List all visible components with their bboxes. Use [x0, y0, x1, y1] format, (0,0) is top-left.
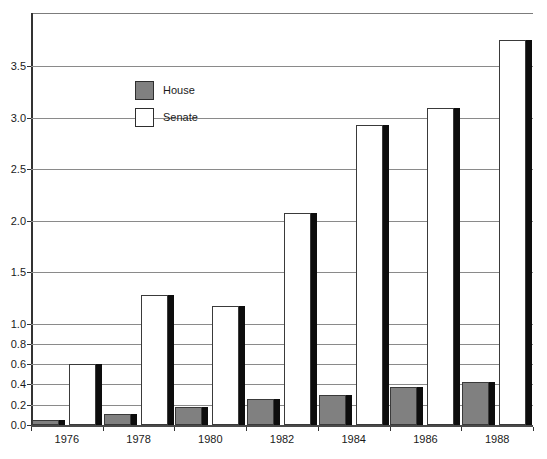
bar-front-face — [69, 364, 96, 425]
bar-top-bevel — [58, 420, 65, 424]
bar-front-face — [390, 387, 417, 425]
y-tick-label: 3.0 — [11, 112, 26, 123]
bar-side-face — [202, 411, 208, 425]
legend-label-house: House — [163, 85, 195, 96]
bar-side-face — [311, 217, 317, 425]
x-tick-label-1978: 1978 — [126, 434, 150, 445]
bar-front-face — [356, 125, 383, 425]
y-tick-mark — [27, 169, 31, 170]
bar-side-face — [96, 368, 102, 425]
bar-group-1980 — [175, 13, 245, 425]
bar-top-bevel — [273, 399, 280, 403]
legend-swatch-house-icon — [135, 81, 154, 100]
bar-group-1976 — [32, 13, 102, 425]
bar-top-bevel — [238, 306, 245, 310]
bar-top-bevel — [382, 125, 389, 129]
x-tick-label-1980: 1980 — [198, 434, 222, 445]
bar-front-face — [499, 40, 526, 425]
y-tick-label: 0.6 — [11, 359, 26, 370]
bar-side-face — [383, 129, 389, 425]
bar-group-1982 — [247, 13, 317, 425]
bar-side-face — [489, 386, 495, 425]
bar-top-bevel — [525, 40, 532, 44]
bar-front-face — [462, 382, 489, 425]
y-tick-label: 3.5 — [11, 61, 26, 72]
bar-house-1988 — [462, 382, 495, 425]
legend-item-house: House — [135, 79, 198, 101]
bar-side-face — [346, 399, 352, 425]
y-tick-mark — [27, 344, 31, 345]
bar-chart: 0.00.20.40.60.81.01.52.02.53.03.5 197619… — [0, 0, 547, 459]
bar-side-face — [274, 403, 280, 425]
bar-top-bevel — [488, 382, 495, 386]
x-tick-mark — [318, 427, 319, 431]
y-tick-mark — [27, 221, 31, 222]
y-tick-label: 0.8 — [11, 338, 26, 349]
bar-front-face — [175, 407, 202, 425]
bar-front-face — [284, 213, 311, 425]
bar-house-1980 — [175, 407, 208, 425]
bar-senate-1988 — [499, 40, 532, 425]
bar-side-face — [131, 418, 137, 425]
bar-side-face — [454, 112, 460, 425]
bar-group-1978 — [104, 13, 174, 425]
legend-label-senate: Senate — [163, 112, 198, 123]
bar-house-1986 — [390, 387, 423, 425]
bar-top-bevel — [201, 407, 208, 411]
chart-legend: House Senate — [135, 79, 198, 133]
bar-front-face — [32, 420, 59, 425]
bar-top-bevel — [95, 364, 102, 368]
bar-front-face — [247, 399, 274, 425]
bar-senate-1978 — [141, 295, 174, 425]
x-tick-mark — [533, 427, 534, 431]
bar-side-face — [417, 391, 423, 425]
x-tick-mark — [31, 427, 32, 431]
legend-item-senate: Senate — [135, 106, 198, 128]
x-tick-label-1976: 1976 — [55, 434, 79, 445]
bar-top-bevel — [345, 395, 352, 399]
bar-senate-1976 — [69, 364, 102, 425]
bar-top-bevel — [310, 213, 317, 217]
x-tick-mark — [103, 427, 104, 431]
bar-side-face — [168, 299, 174, 425]
y-tick-label: 0.4 — [11, 379, 26, 390]
x-tick-mark — [174, 427, 175, 431]
bar-house-1978 — [104, 414, 137, 425]
y-tick-label: 0.2 — [11, 399, 26, 410]
y-tick-mark — [27, 384, 31, 385]
x-tick-label-1982: 1982 — [270, 434, 294, 445]
bar-group-1988 — [462, 13, 532, 425]
y-tick-mark — [27, 425, 31, 426]
bar-side-face — [59, 424, 65, 425]
x-tick-label-1988: 1988 — [485, 434, 509, 445]
bar-group-1984 — [319, 13, 389, 425]
bar-top-bevel — [453, 108, 460, 112]
bar-side-face — [239, 310, 245, 425]
y-tick-mark — [27, 405, 31, 406]
x-tick-mark — [246, 427, 247, 431]
y-tick-label: 0.0 — [11, 420, 26, 431]
bar-house-1976 — [32, 420, 65, 425]
y-tick-mark — [27, 118, 31, 119]
bar-front-face — [427, 108, 454, 425]
y-tick-label: 1.5 — [11, 267, 26, 278]
bar-senate-1986 — [427, 108, 460, 425]
y-tick-label: 1.0 — [11, 318, 26, 329]
x-tick-label-1986: 1986 — [413, 434, 437, 445]
bar-front-face — [141, 295, 168, 425]
y-tick-label: 2.0 — [11, 215, 26, 226]
bar-side-face — [526, 44, 532, 425]
bar-front-face — [212, 306, 239, 425]
bar-senate-1980 — [212, 306, 245, 425]
x-tick-label-1984: 1984 — [341, 434, 365, 445]
y-tick-mark — [27, 364, 31, 365]
y-tick-label: 2.5 — [11, 164, 26, 175]
x-tick-mark — [461, 427, 462, 431]
bar-top-bevel — [130, 414, 137, 418]
bar-senate-1982 — [284, 213, 317, 425]
x-tick-mark — [390, 427, 391, 431]
x-axis-line — [31, 425, 533, 427]
legend-swatch-senate-icon — [135, 108, 154, 127]
bar-front-face — [319, 395, 346, 425]
bar-top-bevel — [167, 295, 174, 299]
